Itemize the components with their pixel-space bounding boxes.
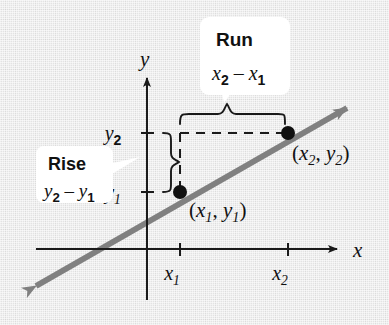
rise-callout-title: Rise bbox=[48, 154, 86, 174]
run-expr-second-base: x bbox=[248, 62, 258, 84]
y-tick-label-y1-sub: 1 bbox=[114, 192, 121, 207]
point-2-label-comma: , bbox=[315, 141, 326, 165]
x-tick-label-x2-base: x bbox=[271, 262, 281, 284]
point-1-label-y-base: y bbox=[221, 198, 233, 222]
point-1-marker bbox=[173, 185, 187, 199]
point-2-label-open: ( bbox=[292, 141, 299, 165]
x-axis-label: x bbox=[352, 238, 363, 262]
rise-callout: Rise y2 – y1 bbox=[36, 146, 140, 205]
dashed-construction-lines bbox=[180, 133, 288, 192]
run-expr-first-base: x bbox=[211, 62, 221, 84]
point-1-label-open: ( bbox=[189, 198, 196, 222]
rise-expr-first-sub: 2 bbox=[52, 190, 59, 205]
point-1-label-x-sub: 1 bbox=[205, 209, 212, 225]
y-axis-label: y bbox=[138, 47, 150, 71]
point-2-marker bbox=[281, 126, 295, 140]
y-tick-label-y2-base: y bbox=[103, 122, 114, 145]
rise-expr-second-sub: 1 bbox=[87, 190, 95, 205]
run-expr-second-sub: 1 bbox=[258, 72, 266, 88]
rise-expr-second-base: y bbox=[77, 180, 88, 201]
point-1-label-y-sub: 1 bbox=[232, 209, 239, 225]
run-brace bbox=[180, 104, 285, 124]
rise-expr-first-base: y bbox=[42, 180, 53, 201]
x-tick-label-x1-sub: 1 bbox=[173, 273, 180, 288]
run-expr-first-sub: 2 bbox=[221, 72, 229, 88]
point-1-label-close: ) bbox=[239, 198, 246, 222]
point-2-label: (x2, y2) bbox=[292, 141, 349, 168]
slope-diagram-figure: x y x1 x2 y2 y1 (x1, y1) (x2, y2) Run bbox=[0, 0, 389, 325]
x-tick-label-x1: x1 bbox=[163, 262, 180, 288]
run-expr-operator: – bbox=[229, 62, 249, 84]
rise-brace bbox=[163, 133, 179, 192]
rise-expr-operator: – bbox=[60, 180, 79, 201]
point-2-label-y-base: y bbox=[324, 141, 336, 165]
point-2-label-close: ) bbox=[342, 141, 349, 165]
x-tick-label-x2: x2 bbox=[271, 262, 288, 288]
point-1-label: (x1, y1) bbox=[189, 198, 246, 225]
point-2-label-x-sub: 2 bbox=[308, 152, 315, 168]
run-callout-title: Run bbox=[216, 29, 253, 50]
x-tick-label-x2-sub: 2 bbox=[281, 273, 288, 288]
point-2-label-y-sub: 2 bbox=[335, 152, 342, 168]
data-points-group bbox=[173, 126, 295, 199]
y-tick-label-y2-sub: 2 bbox=[114, 132, 122, 148]
point-1-label-comma: , bbox=[212, 198, 223, 222]
y-tick-label-y2: y2 bbox=[103, 122, 122, 148]
run-callout: Run x2 – x1 bbox=[200, 17, 290, 103]
x-tick-label-x1-base: x bbox=[163, 262, 173, 284]
slope-diagram-canvas: x y x1 x2 y2 y1 (x1, y1) (x2, y2) Run bbox=[0, 0, 389, 325]
